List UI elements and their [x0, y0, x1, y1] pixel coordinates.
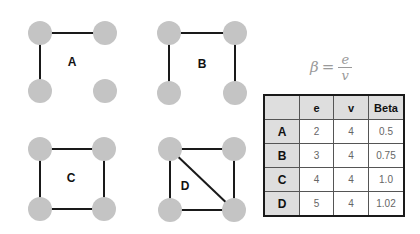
table-row: D 5 4 1.02 — [264, 192, 404, 217]
cell-e: 3 — [300, 144, 334, 168]
node — [158, 198, 182, 222]
formula-equals: = — [322, 58, 335, 76]
node — [28, 79, 52, 103]
cell-v: 4 — [334, 168, 369, 192]
node — [28, 21, 52, 45]
graph-label: B — [198, 57, 207, 71]
node — [28, 197, 52, 221]
cell-e: 4 — [300, 168, 334, 192]
graph-label: C — [67, 171, 76, 185]
header-cell-v: v — [334, 95, 369, 120]
header-cell-beta: Beta — [369, 95, 405, 120]
node — [158, 137, 182, 161]
cell-e: 2 — [300, 120, 334, 144]
node — [28, 137, 52, 161]
row-label: C — [264, 168, 300, 192]
row-label: D — [264, 192, 300, 217]
table-row: C 4 4 1.0 — [264, 168, 404, 192]
cell-beta: 0.75 — [369, 144, 405, 168]
cell-v: 4 — [334, 144, 369, 168]
node — [92, 137, 116, 161]
node — [157, 21, 181, 45]
node — [93, 79, 117, 103]
cell-e: 5 — [300, 192, 334, 217]
table-header-row: e v Beta — [264, 95, 404, 120]
graph-a: A — [28, 21, 117, 103]
cell-beta: 0.5 — [369, 120, 405, 144]
graph-b: B — [157, 21, 247, 105]
cell-beta: 1.02 — [369, 192, 405, 217]
beta-formula: β = e v — [310, 50, 370, 84]
node — [92, 197, 116, 221]
beta-table: e v Beta A 2 4 0.5 B 3 4 0.75 C 4 4 1.0 … — [263, 94, 405, 217]
row-label: B — [264, 144, 300, 168]
graph-label: D — [181, 179, 190, 193]
node — [223, 21, 247, 45]
cell-beta: 1.0 — [369, 168, 405, 192]
formula-lhs: β — [310, 58, 319, 76]
formula-fraction: e v — [338, 53, 352, 82]
node — [223, 81, 247, 105]
cell-v: 4 — [334, 120, 369, 144]
graph-d: D — [158, 137, 246, 222]
table-row: A 2 4 0.5 — [264, 120, 404, 144]
node — [93, 21, 117, 45]
node — [157, 81, 181, 105]
graphs-canvas: A B C D — [0, 0, 260, 234]
cell-v: 4 — [334, 192, 369, 217]
graph-label: A — [68, 55, 77, 69]
table-row: B 3 4 0.75 — [264, 144, 404, 168]
formula-denominator: v — [342, 69, 349, 82]
header-cell-e: e — [300, 95, 334, 120]
formula-numerator: e — [341, 53, 349, 66]
edge-diagonal — [170, 149, 234, 210]
header-cell-blank — [264, 95, 300, 120]
graph-c: C — [28, 137, 116, 221]
row-label: A — [264, 120, 300, 144]
node — [222, 137, 246, 161]
node — [222, 198, 246, 222]
